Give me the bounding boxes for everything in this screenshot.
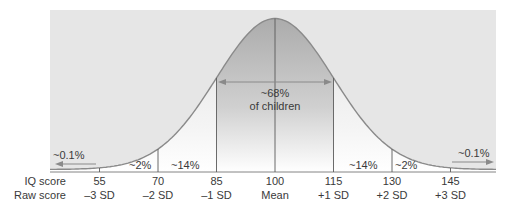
iq-tick-label: 55 [93,175,105,187]
iq-tick-label: 85 [210,175,222,187]
x-axis-tick-labels: 55–3 SD70–2 SD85–1 SD100Mean115+1 SD130+… [84,175,466,201]
left-2-label: ~2% [129,159,152,171]
raw-tick-label: +3 SD [435,189,466,201]
raw-tick-label: +2 SD [377,189,408,201]
raw-tick-label: –3 SD [84,189,115,201]
center-sub-label: of children [250,100,301,112]
right-tail-label: ~0.1% [458,147,490,159]
raw-tick-label: +1 SD [318,189,349,201]
iq-score-row-label: IQ score [24,175,66,187]
iq-tick-label: 70 [152,175,164,187]
right-2-label: ~2% [395,159,418,171]
iq-distribution-chart: ~68% of children ~0.1% ~0.1% ~2% ~14% ~1… [0,0,515,211]
right-14-label: ~14% [349,159,378,171]
raw-tick-label: –1 SD [201,189,232,201]
raw-tick-label: –2 SD [143,189,174,201]
left-tail-label: ~0.1% [53,149,85,161]
iq-tick-label: 100 [266,175,284,187]
center-percent-label: ~68% [261,87,290,99]
raw-score-row-label: Raw score [14,189,66,201]
left-14-label: ~14% [171,159,200,171]
iq-tick-label: 145 [441,175,459,187]
iq-tick-label: 115 [325,175,343,187]
raw-tick-label: Mean [261,189,289,201]
iq-tick-label: 130 [383,175,401,187]
